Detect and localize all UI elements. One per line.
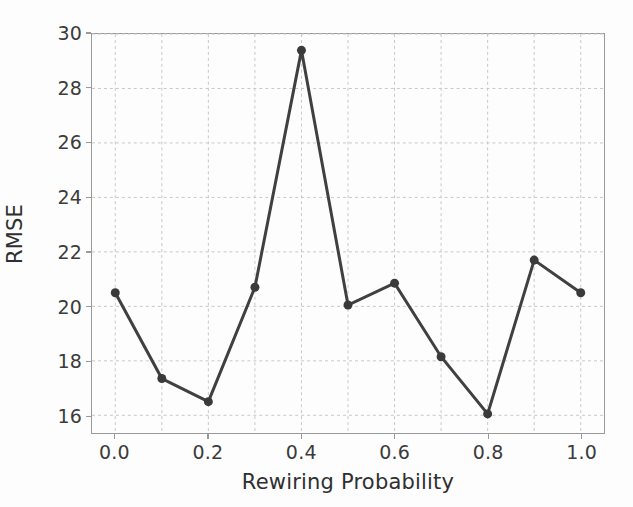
y-tick-label: 28 <box>57 77 82 99</box>
x-tick-label: 0.4 <box>286 441 317 463</box>
y-tick-label: 24 <box>57 186 82 208</box>
data-point <box>250 283 259 292</box>
y-tick-label: 16 <box>57 405 82 427</box>
data-series-rmse <box>92 34 604 433</box>
data-point <box>576 288 585 297</box>
x-tick-mark <box>394 434 395 439</box>
y-tick-label: 30 <box>57 22 82 44</box>
x-tick-mark <box>488 434 489 439</box>
data-point <box>344 301 353 310</box>
x-axis-tick-labels: 0.00.20.40.60.81.0 <box>0 441 633 471</box>
y-axis-title-wrapper: RMSE <box>0 33 30 434</box>
y-tick-mark <box>86 197 91 198</box>
x-tick-label: 0.0 <box>99 441 130 463</box>
y-tick-mark <box>86 32 91 33</box>
y-tick-mark <box>86 361 91 362</box>
x-tick-label: 0.8 <box>473 441 504 463</box>
y-tick-label: 22 <box>57 241 82 263</box>
y-tick-mark <box>86 142 91 143</box>
y-tick-mark <box>86 306 91 307</box>
data-point <box>157 374 166 383</box>
x-tick-mark <box>207 434 208 439</box>
data-point <box>204 397 213 406</box>
x-tick-label: 0.6 <box>379 441 410 463</box>
x-axis-title: Rewiring Probability <box>91 470 605 494</box>
data-point <box>530 256 539 265</box>
y-tick-mark <box>86 416 91 417</box>
y-axis-title: RMSE <box>3 203 27 263</box>
data-point <box>390 279 399 288</box>
plot-area <box>91 33 605 434</box>
y-tick-label: 20 <box>57 296 82 318</box>
y-tick-label: 26 <box>57 131 82 153</box>
chart-figure: 1618202224262830 RMSE 0.00.20.40.60.81.0… <box>0 0 633 507</box>
data-point <box>297 46 306 55</box>
x-tick-mark <box>114 434 115 439</box>
data-point <box>483 409 492 418</box>
x-tick-label: 0.2 <box>192 441 223 463</box>
y-tick-label: 18 <box>57 350 82 372</box>
data-point <box>437 352 446 361</box>
x-tick-label: 1.0 <box>566 441 597 463</box>
y-tick-mark <box>86 87 91 88</box>
x-tick-mark <box>581 434 582 439</box>
data-point <box>111 288 120 297</box>
x-tick-mark <box>301 434 302 439</box>
y-tick-mark <box>86 251 91 252</box>
